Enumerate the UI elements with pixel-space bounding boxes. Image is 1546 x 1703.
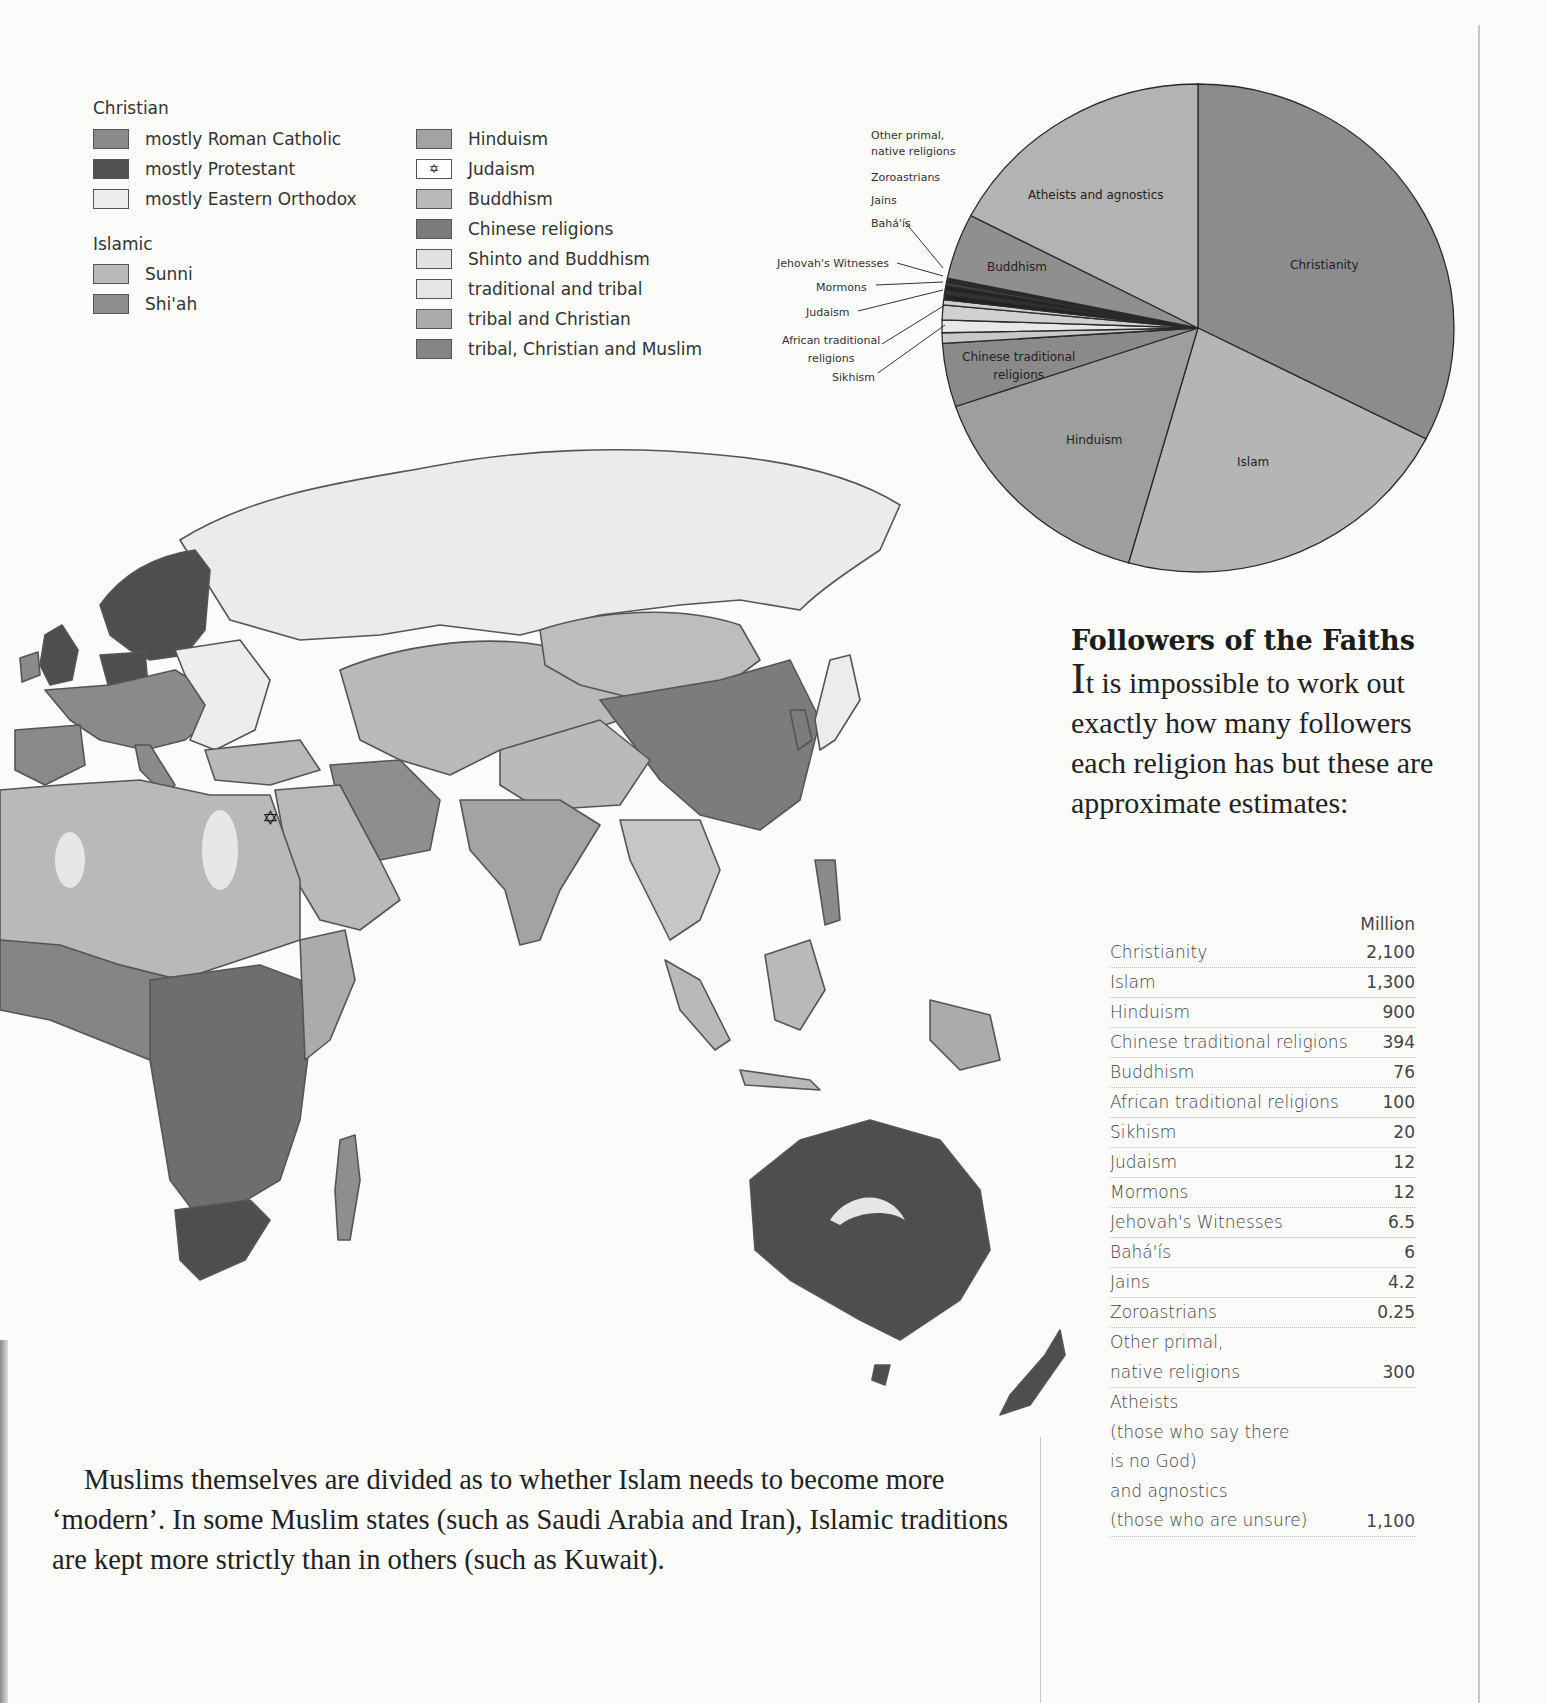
pie-callout-jehovahs: Jehovah's Witnesses (777, 257, 889, 270)
star-of-david-icon: ✡ (262, 806, 279, 830)
map-region-uk (40, 625, 78, 685)
pie-callout-bahais: Bahá'ís (871, 217, 911, 230)
table-cell-name: Atheists (those who say there is no God)… (1110, 1388, 1307, 1536)
map-region-borneo (765, 940, 825, 1030)
map-region-new-guinea (930, 1000, 1000, 1070)
table-cell-name: Christianity (1110, 938, 1207, 967)
table-row: Zoroastrians0.25 (1110, 1298, 1415, 1328)
table-cell-name: Jains (1110, 1268, 1150, 1297)
table-cell-name: Bahá'ís (1110, 1238, 1171, 1267)
pie-callout-zoroastrians: Zoroastrians (871, 171, 940, 184)
table-row: Christianity2,100 (1110, 938, 1415, 968)
pie-callout-african: African traditional religions (782, 332, 880, 368)
table-cell-name: African traditional religions (1110, 1088, 1339, 1117)
pie-callout-judaism: Judaism (806, 306, 849, 319)
name-line: Atheists (1110, 1388, 1307, 1418)
table-row: Chinese traditional religions394 (1110, 1028, 1415, 1058)
table-cell-name: Buddhism (1110, 1058, 1194, 1087)
pie-callout-other-primal: Other primal, native religions (871, 128, 956, 160)
map-region-sumatra (665, 960, 730, 1050)
map-region-south-africa (175, 1200, 270, 1280)
pie-callout-jains: Jains (871, 194, 897, 207)
intro-text: t is impossible to work out exactly how … (1071, 666, 1433, 819)
table-cell-name: Sikhism (1110, 1118, 1176, 1147)
table-cell-value: 12 (1393, 1178, 1415, 1207)
name-line: native religions (1110, 1358, 1240, 1388)
table-row-other-primal: Other primal, native religions 300 (1110, 1328, 1415, 1388)
pie-callout-sikhism: Sikhism (832, 371, 875, 384)
table-cell-value: 0.25 (1377, 1298, 1415, 1327)
callout-line: religions (782, 350, 880, 368)
callout-leader-line (897, 263, 943, 276)
table-row: Sikhism20 (1110, 1118, 1415, 1148)
map-region-sahara-tribal (55, 832, 85, 888)
callout-leader-line (858, 290, 943, 311)
table-cell-value: 1,100 (1366, 1507, 1415, 1536)
table-row: Buddhism76 (1110, 1058, 1415, 1088)
table-row: Mormons12 (1110, 1178, 1415, 1208)
table-cell-value: 6 (1404, 1238, 1415, 1267)
pie-label-chinese: Chinese traditional religions (962, 348, 1075, 384)
body-paragraph: Muslims themselves are divided as to whe… (52, 1460, 1012, 1580)
map-region-east-africa (300, 930, 355, 1060)
map-region-central-africa (150, 965, 310, 1220)
name-line: (those who are unsure) (1110, 1506, 1307, 1536)
map-region-india (460, 800, 600, 945)
pie-callout-mormons: Mormons (816, 281, 867, 294)
table-cell-value: 100 (1383, 1088, 1415, 1117)
table-cell-value: 76 (1393, 1058, 1415, 1087)
table-cell-name: Other primal, native religions (1110, 1328, 1240, 1387)
map-region-tasmania (872, 1365, 890, 1385)
callout-line: Other primal, (871, 128, 956, 144)
map-region-japan (815, 655, 860, 750)
table-unit-header: Million (1110, 910, 1415, 938)
table-row: Judaism12 (1110, 1148, 1415, 1178)
table-cell-value: 2,100 (1366, 938, 1415, 967)
callout-leader-line (878, 325, 945, 373)
pie-label-line: religions (962, 366, 1075, 384)
table-row: Islam1,300 (1110, 968, 1415, 998)
table-cell-value: 900 (1383, 998, 1415, 1027)
table-cell-value: 4.2 (1388, 1268, 1415, 1297)
followers-table: Million Christianity2,100Islam1,300Hindu… (1110, 910, 1415, 1537)
table-row: Jains4.2 (1110, 1268, 1415, 1298)
table-row: Bahá'ís6 (1110, 1238, 1415, 1268)
intro-paragraph: It is impossible to work out exactly how… (1071, 663, 1451, 823)
table-cell-name: Mormons (1110, 1178, 1188, 1207)
map-region-philippines (815, 860, 840, 925)
map-region-australia (750, 1120, 990, 1340)
map-region-new-zealand (1000, 1330, 1065, 1415)
table-row: Hinduism900 (1110, 998, 1415, 1028)
callout-leader-line (882, 305, 945, 344)
pie-label-islam: Islam (1237, 455, 1269, 469)
table-cell-value: 394 (1383, 1028, 1415, 1057)
callout-leader-line (876, 282, 943, 285)
table-cell-value: 20 (1393, 1118, 1415, 1147)
callout-line: native religions (871, 144, 956, 160)
table-row-atheists: Atheists (those who say there is no God)… (1110, 1388, 1415, 1537)
table-cell-name: Hinduism (1110, 998, 1190, 1027)
pie-label-buddhism: Buddhism (987, 260, 1047, 274)
table-cell-name: Judaism (1110, 1148, 1177, 1177)
table-cell-value: 12 (1393, 1148, 1415, 1177)
name-line: is no God) (1110, 1447, 1307, 1477)
callout-line: African traditional (782, 332, 880, 350)
map-region-java (740, 1070, 820, 1090)
name-line: Other primal, (1110, 1328, 1240, 1358)
table-cell-name: Jehovah's Witnesses (1110, 1208, 1283, 1237)
table-cell-value: 1,300 (1366, 968, 1415, 997)
pie-label-line: Chinese traditional (962, 348, 1075, 366)
religion-pie-chart (0, 0, 1546, 620)
table-cell-name: Chinese traditional religions (1110, 1028, 1348, 1057)
table-cell-value: 300 (1383, 1358, 1415, 1387)
map-region-southeast-asia (620, 820, 720, 940)
table-body: Christianity2,100Islam1,300Hinduism900Ch… (1110, 938, 1415, 1328)
map-region-ireland (20, 652, 40, 682)
pie-label-hinduism: Hinduism (1066, 433, 1122, 447)
map-region-madagascar (335, 1135, 360, 1240)
pie-label-atheists: Atheists and agnostics (1028, 188, 1164, 202)
map-region-sahara-tribal (202, 810, 238, 890)
section-heading: Followers of the Faiths (1071, 625, 1415, 656)
table-row: Jehovah's Witnesses6.5 (1110, 1208, 1415, 1238)
table-cell-name: Zoroastrians (1110, 1298, 1217, 1327)
